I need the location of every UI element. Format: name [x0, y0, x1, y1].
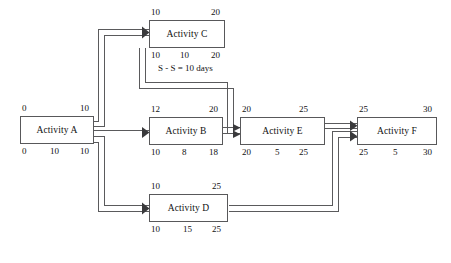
- node-activity-a-label: Activity A: [37, 125, 78, 135]
- node-activity-b-early-start: 12: [151, 104, 160, 114]
- node-activity-d-late-start: 10: [151, 224, 160, 234]
- node-activity-f-late-finish: 30: [423, 147, 432, 157]
- node-activity-f-label: Activity F: [377, 126, 417, 136]
- node-activity-e-duration: 5: [275, 147, 280, 157]
- node-activity-a-early-start: 0: [22, 103, 27, 113]
- node-activity-e-early-finish: 25: [299, 104, 308, 114]
- node-activity-f-late-start: 25: [359, 147, 368, 157]
- link-a-to-d: [94, 137, 150, 212]
- node-activity-a-duration: 10: [50, 146, 59, 156]
- node-activity-f[interactable]: Activity F: [357, 117, 437, 145]
- node-activity-c-label: Activity C: [167, 29, 208, 39]
- node-activity-a-late-start: 0: [22, 146, 27, 156]
- link-a-to-c: [94, 30, 150, 127]
- node-activity-d[interactable]: Activity D: [149, 194, 228, 222]
- node-activity-b-label: Activity B: [166, 126, 207, 136]
- node-activity-d-duration: 15: [183, 224, 192, 234]
- node-activity-c-duration: 10: [180, 50, 189, 60]
- ss-lag-annotation: S - S = 10 days: [158, 63, 213, 73]
- node-activity-b[interactable]: Activity B: [149, 117, 223, 145]
- node-activity-c-early-start: 10: [151, 7, 160, 17]
- node-activity-e[interactable]: Activity E: [240, 117, 325, 145]
- node-activity-f-early-finish: 30: [423, 104, 432, 114]
- node-activity-c[interactable]: Activity C: [149, 20, 225, 48]
- node-activity-c-early-finish: 20: [211, 7, 220, 17]
- node-activity-d-early-start: 10: [151, 181, 160, 191]
- node-activity-d-late-finish: 25: [212, 224, 221, 234]
- node-activity-d-label: Activity D: [168, 203, 209, 213]
- node-activity-b-early-finish: 20: [209, 104, 218, 114]
- node-activity-e-early-start: 20: [242, 104, 251, 114]
- node-activity-a-early-finish: 10: [80, 103, 89, 113]
- node-activity-e-late-start: 20: [242, 147, 251, 157]
- node-activity-f-early-start: 25: [359, 104, 368, 114]
- node-activity-b-late-finish: 18: [209, 147, 218, 157]
- network-diagram-canvas: Activity A 0 10 0 10 10 Activity C 10 20…: [0, 0, 451, 263]
- node-activity-a[interactable]: Activity A: [20, 116, 94, 144]
- node-activity-b-duration: 8: [182, 147, 187, 157]
- node-activity-e-label: Activity E: [262, 126, 302, 136]
- node-activity-c-late-start: 10: [151, 50, 160, 60]
- node-activity-c-late-finish: 20: [211, 50, 220, 60]
- node-activity-f-duration: 5: [393, 147, 398, 157]
- node-activity-d-early-finish: 25: [212, 181, 221, 191]
- node-activity-e-late-finish: 25: [299, 147, 308, 157]
- node-activity-b-late-start: 10: [151, 147, 160, 157]
- node-activity-a-late-finish: 10: [80, 146, 89, 156]
